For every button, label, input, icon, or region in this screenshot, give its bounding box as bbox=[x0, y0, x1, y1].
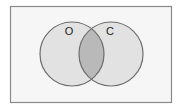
venn-svg: O C bbox=[0, 0, 181, 112]
set-o-label: O bbox=[65, 25, 74, 37]
set-c-label: C bbox=[106, 25, 114, 37]
venn-diagram: O C bbox=[0, 0, 181, 112]
